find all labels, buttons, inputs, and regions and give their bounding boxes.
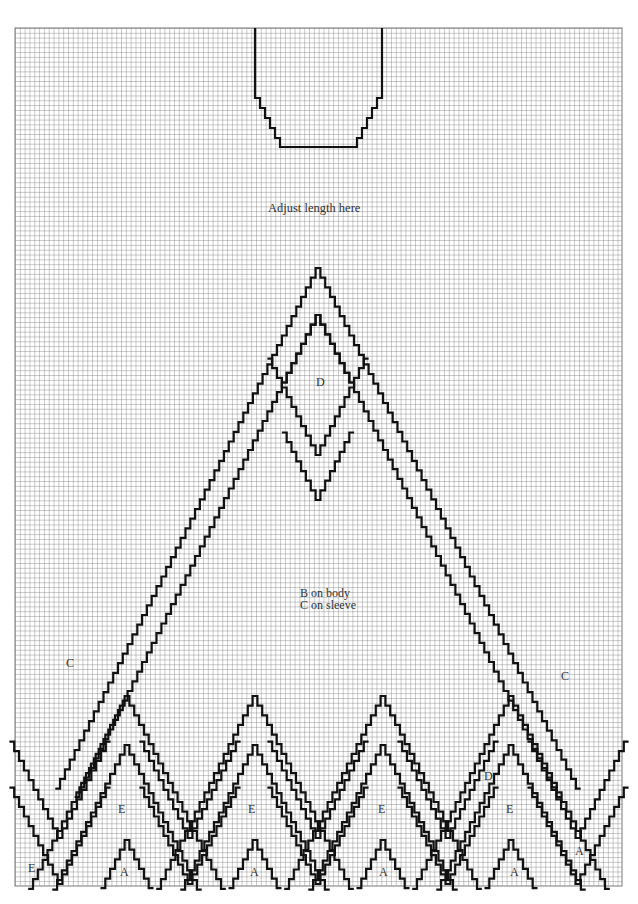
region-e-3: E xyxy=(378,803,385,816)
region-a-3: A xyxy=(379,866,388,879)
knitting-chart-grid xyxy=(0,0,638,904)
region-c-left: C xyxy=(66,657,74,670)
region-e-4: E xyxy=(506,803,513,816)
diamond-d-label: D xyxy=(316,376,325,389)
region-c-right: C xyxy=(561,670,569,683)
region-e-corner: E xyxy=(28,862,35,875)
region-a-2: A xyxy=(250,866,259,879)
region-a-right: A xyxy=(575,845,584,858)
region-a-1: A xyxy=(120,866,129,879)
grid-area xyxy=(15,28,622,886)
region-e-1: E xyxy=(118,803,125,816)
region-d-small: D xyxy=(484,770,493,783)
adjust-length-note: Adjust length here xyxy=(268,202,360,215)
region-e-2: E xyxy=(248,803,255,816)
body-note-c: C on sleeve xyxy=(300,599,356,612)
region-a-4: A xyxy=(510,866,519,879)
